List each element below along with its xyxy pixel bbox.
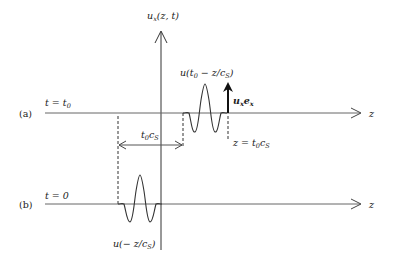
panel-b-tag: (b) <box>19 199 33 210</box>
panel-b-wave-label: u(− z/cS) <box>113 238 156 251</box>
position-label: z = t0cS <box>232 137 270 150</box>
panel-b-z-axis <box>45 199 361 209</box>
distance-double-arrow <box>119 141 182 149</box>
panel-b-z-label: z <box>368 199 375 210</box>
vertical-axis-label: ux(z, t) <box>147 10 179 23</box>
distance-label: t0cS <box>141 129 159 142</box>
panel-b-wave-packet <box>118 175 162 222</box>
wave-propagation-diagram: ux(z, t) (a) t = t0 z uxex u(t0 − z/cS) … <box>0 0 393 266</box>
panel-b-time-label: t = 0 <box>45 190 69 201</box>
panel-a-time-label: t = t0 <box>45 97 71 110</box>
panel-a-tag: (a) <box>19 108 32 119</box>
panel-a-z-label: z <box>368 108 375 119</box>
panel-a-wave-label: u(t0 − z/cS) <box>180 67 234 80</box>
displacement-vector-label: uxex <box>233 95 254 108</box>
panel-a-z-axis <box>45 108 361 118</box>
panel-a-wave-packet <box>183 84 227 132</box>
displacement-vector-arrow <box>223 82 233 113</box>
